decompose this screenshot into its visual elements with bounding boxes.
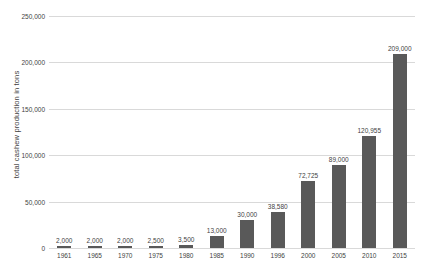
bar-value-label: 2,000 [87, 237, 103, 244]
y-axis-tick-label: 0 [1, 245, 45, 252]
bar-value-label: 2,500 [148, 237, 164, 244]
x-axis-tick-label: 1961 [49, 252, 80, 259]
y-axis-tick-label: 250,000 [1, 13, 45, 20]
bar[interactable] [210, 236, 224, 248]
bar-value-label: 30,000 [237, 211, 257, 218]
bar-value-label: 3,500 [178, 236, 194, 243]
x-axis-tick-label: 1965 [80, 252, 111, 259]
bar-value-label: 13,000 [207, 227, 227, 234]
x-axis-tick-labels: 1961196519701975198019851990199620002005… [49, 252, 415, 270]
bar-value-label: 120,955 [358, 127, 382, 134]
x-axis-tick-label: 2015 [385, 252, 416, 259]
y-axis-title-text: total cashew production in tons [13, 70, 22, 178]
x-axis-tick-label: 2010 [354, 252, 385, 259]
bar[interactable] [149, 246, 163, 248]
bar[interactable] [301, 181, 315, 248]
bar[interactable] [240, 220, 254, 248]
bar-chart: total cashew production in tons 2,0002,0… [0, 0, 421, 278]
y-axis-title: total cashew production in tons [10, 0, 24, 248]
bar-group[interactable]: 2,000 [49, 16, 80, 248]
plot-area: 2,0002,0002,0002,5003,50013,00030,00038,… [49, 16, 415, 248]
bar-group[interactable]: 120,955 [354, 16, 385, 248]
x-axis-tick-label: 1970 [110, 252, 141, 259]
x-axis-tick-label: 1975 [141, 252, 172, 259]
bar[interactable] [57, 246, 71, 248]
y-axis-tick-label: 100,000 [1, 152, 45, 159]
bar-group[interactable]: 38,580 [263, 16, 294, 248]
bar[interactable] [88, 246, 102, 248]
bar-value-label: 209,000 [388, 45, 412, 52]
bar-value-label: 2,000 [56, 237, 72, 244]
bar-value-label: 72,725 [298, 172, 318, 179]
x-axis-tick-label: 2005 [324, 252, 355, 259]
bar[interactable] [271, 212, 285, 248]
bar[interactable] [393, 54, 407, 248]
bars: 2,0002,0002,0002,5003,50013,00030,00038,… [49, 16, 415, 248]
bar-group[interactable]: 3,500 [171, 16, 202, 248]
x-axis-tick-label: 1980 [171, 252, 202, 259]
bar-group[interactable]: 13,000 [202, 16, 233, 248]
bar-group[interactable]: 2,000 [110, 16, 141, 248]
bar-group[interactable]: 72,725 [293, 16, 324, 248]
gridline [49, 248, 415, 249]
x-axis-tick-label: 2000 [293, 252, 324, 259]
bar-value-label: 38,580 [268, 203, 288, 210]
y-axis-tick-label: 50,000 [1, 198, 45, 205]
bar[interactable] [332, 165, 346, 248]
y-axis-tick-label: 150,000 [1, 105, 45, 112]
x-axis-tick-label: 1990 [232, 252, 263, 259]
bar-group[interactable]: 2,000 [80, 16, 111, 248]
bar-group[interactable]: 30,000 [232, 16, 263, 248]
bar-value-label: 2,000 [117, 237, 133, 244]
y-axis-tick-label: 200,000 [1, 59, 45, 66]
bar[interactable] [118, 246, 132, 248]
bar-value-label: 89,000 [329, 156, 349, 163]
bar-group[interactable]: 2,500 [141, 16, 172, 248]
bar-group[interactable]: 89,000 [324, 16, 355, 248]
bar[interactable] [179, 245, 193, 248]
bar-group[interactable]: 209,000 [385, 16, 416, 248]
bar[interactable] [362, 136, 376, 248]
x-axis-tick-label: 1985 [202, 252, 233, 259]
x-axis-tick-label: 1996 [263, 252, 294, 259]
